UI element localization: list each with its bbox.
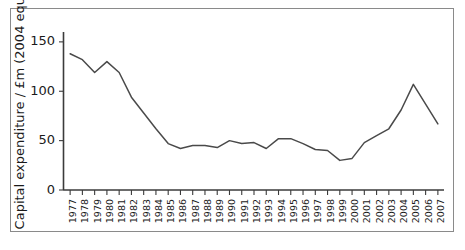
figure-container: Capital expenditure / £m (2004 equiv) 05…	[0, 0, 465, 250]
x-tick-label: 1987	[190, 199, 201, 223]
y-tick-label: 150	[30, 33, 55, 48]
x-tick-label: 1995	[288, 199, 299, 223]
y-tick-label: 100	[30, 83, 55, 98]
x-tick-label: 1991	[239, 199, 250, 223]
x-tick-label: 2001	[361, 199, 372, 223]
x-tick-label: 1983	[141, 199, 152, 223]
x-tick-label: 1977	[67, 199, 78, 223]
x-tick-label: 1992	[251, 199, 262, 223]
x-tick-label: 1984	[153, 199, 164, 223]
x-tick-label: 1997	[312, 199, 323, 223]
x-tick-label: 2006	[423, 199, 434, 223]
x-tick-label: 2000	[349, 199, 360, 223]
line-chart: Capital expenditure / £m (2004 equiv) 05…	[0, 0, 465, 250]
x-tick-label: 2007	[435, 199, 446, 223]
x-tick-label: 1986	[177, 199, 188, 223]
y-axis-title-text: Capital expenditure / £m (2004 equiv)	[12, 0, 27, 229]
x-tick-label: 2004	[398, 199, 409, 223]
x-tick-label: 1996	[300, 199, 311, 223]
x-tick-label: 1989	[214, 199, 225, 223]
x-tick-label: 2003	[386, 199, 397, 223]
x-tick-label: 1985	[165, 199, 176, 223]
x-tick-label: 1982	[128, 199, 139, 223]
x-tick-label: 1994	[276, 199, 287, 223]
y-tick-label: 50	[38, 132, 55, 147]
y-tick-label: 0	[47, 182, 55, 197]
x-tick-label: 1988	[202, 199, 213, 223]
x-tick-label: 1998	[325, 199, 336, 223]
y-axis-ticks: 050100150	[30, 33, 64, 196]
data-series-line	[70, 54, 438, 161]
x-tick-label: 1993	[263, 199, 274, 223]
x-tick-label: 1978	[79, 199, 90, 223]
x-tick-label: 1979	[92, 199, 103, 223]
x-tick-label: 2002	[374, 199, 385, 223]
y-axis-title: Capital expenditure / £m (2004 equiv)	[12, 0, 27, 229]
x-tick-label: 1990	[226, 199, 237, 223]
x-tick-label: 1980	[104, 199, 115, 223]
x-tick-label: 1999	[337, 199, 348, 223]
x-axis-ticks: 1977197819791980198119821983198419851986…	[67, 190, 446, 223]
x-tick-label: 2005	[410, 199, 421, 223]
x-tick-label: 1981	[116, 199, 127, 223]
